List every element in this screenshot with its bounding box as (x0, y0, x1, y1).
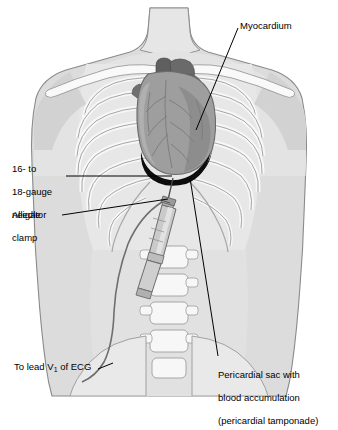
label-needle-line2: 18-gauge (12, 186, 52, 197)
label-myocardium: Myocardium (240, 20, 292, 31)
label-ecg-suffix: of ECG (58, 361, 92, 372)
label-ecg-lead: To lead V1 of ECG (14, 361, 91, 375)
label-peri-line3: (pericardial tamponade) (218, 415, 318, 426)
label-pericardial-sac: Pericardial sac with blood accumulation … (218, 358, 318, 430)
label-alligator-clamp: Alligator clamp (12, 198, 46, 255)
label-needle-line1: 16- to (12, 163, 52, 174)
label-clamp-line1: Alligator (12, 209, 46, 220)
label-peri-line2: blood accumulation (218, 392, 318, 403)
label-peri-line1: Pericardial sac with (218, 369, 318, 380)
label-ecg-prefix: To lead V (14, 361, 54, 372)
label-clamp-line2: clamp (12, 232, 46, 243)
